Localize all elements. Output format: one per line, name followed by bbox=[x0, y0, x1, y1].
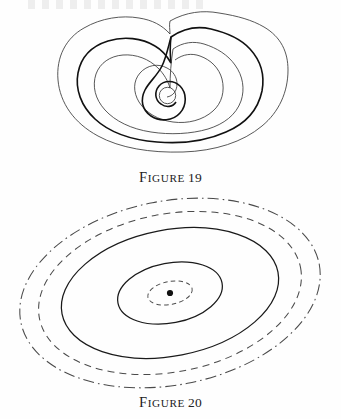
center-point-dot bbox=[167, 290, 173, 296]
curve-spiral-outer-branch bbox=[135, 54, 224, 122]
figure-19-caption-number: 19 bbox=[188, 170, 202, 185]
figure-19-caption: FIGURE19 bbox=[0, 169, 341, 186]
figure-19-caption-lead: F bbox=[139, 169, 148, 185]
figure-20-caption-rest: IGURE bbox=[148, 397, 185, 409]
figure-20-diagram bbox=[0, 192, 341, 392]
curve-spiral-inner-branch bbox=[142, 37, 185, 120]
figure-20-caption-number: 20 bbox=[188, 395, 202, 410]
figure-19-block: FIGURE19 bbox=[0, 0, 341, 195]
figure-19-caption-rest: IGURE bbox=[148, 172, 185, 184]
figure-20-caption: FIGURE20 bbox=[0, 394, 341, 411]
figure-20-caption-lead: F bbox=[139, 394, 148, 410]
figure-20-block: FIGURE20 bbox=[0, 192, 341, 419]
figure-19-diagram bbox=[0, 0, 341, 168]
curve-center-circle bbox=[159, 87, 175, 103]
page-canvas: FIGURE19 FIGURE20 bbox=[0, 0, 341, 419]
